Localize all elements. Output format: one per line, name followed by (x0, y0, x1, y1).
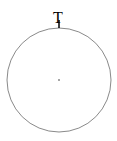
top-label: T (53, 10, 63, 26)
center-point (58, 79, 60, 81)
